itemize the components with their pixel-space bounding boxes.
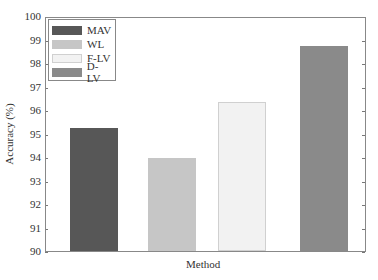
y-tick-label: 96 xyxy=(0,104,41,116)
y-tick-label: 91 xyxy=(0,222,41,234)
y-tick-label: 97 xyxy=(0,81,41,93)
legend-swatch xyxy=(52,26,82,35)
y-tick-label: 100 xyxy=(0,10,41,22)
bar-mav xyxy=(70,128,118,251)
y-tick-label: 95 xyxy=(0,128,41,140)
legend-swatch xyxy=(52,68,82,77)
y-tick-label: 93 xyxy=(0,175,41,187)
legend-label: MAV xyxy=(87,24,111,36)
legend: MAVWLF-LVD-LV xyxy=(48,19,116,81)
legend-item: WL xyxy=(52,37,112,51)
legend-label: D-LV xyxy=(87,60,112,84)
legend-item: MAV xyxy=(52,23,112,37)
y-tick-mark xyxy=(362,252,365,253)
y-tick-mark xyxy=(45,252,48,253)
y-tick-label: 92 xyxy=(0,198,41,210)
bar-wl xyxy=(148,158,196,251)
bar-d-lv xyxy=(300,46,348,251)
legend-swatch xyxy=(52,40,82,49)
y-tick-label: 90 xyxy=(0,245,41,257)
y-tick-label: 94 xyxy=(0,151,41,163)
legend-item: D-LV xyxy=(52,65,112,79)
x-axis-label: Method xyxy=(186,258,220,270)
y-tick-label: 99 xyxy=(0,34,41,46)
legend-swatch xyxy=(52,54,82,63)
bar-f-lv xyxy=(218,102,266,251)
y-tick-label: 98 xyxy=(0,57,41,69)
legend-label: WL xyxy=(87,38,104,50)
